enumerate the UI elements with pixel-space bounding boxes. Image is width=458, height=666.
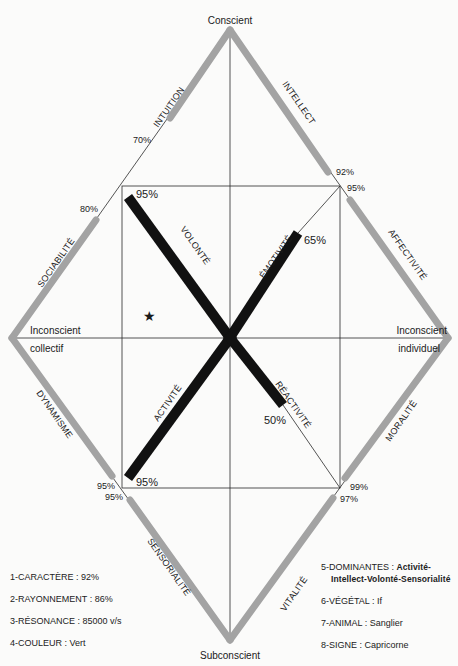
dominantes-label: 5-DOMINANTES : (321, 562, 397, 572)
value-activite: 95% (136, 476, 158, 488)
bar-sensorialite (130, 500, 230, 640)
value-sociabilite: 80% (80, 204, 98, 214)
legend-couleur: 4-COULEUR : Vert (10, 637, 122, 649)
value-sensorialite: 95% (105, 492, 123, 502)
legend-resonance: 3-RÉSONANCE : 85000 v/s (10, 615, 122, 627)
inner-bars (128, 197, 298, 478)
bar-intellect (230, 30, 328, 172)
bar-emotivite (227, 233, 298, 342)
dominantes-value-1: Activité- (397, 562, 431, 572)
label-volonte: VOLONTÉ (178, 224, 212, 266)
value-intellect: 92% (336, 167, 354, 177)
pole-left-2: collectif (30, 343, 64, 354)
legend-rayonnement: 2-RAYONNEMENT : 86% (10, 593, 122, 605)
pole-left-1: Inconscient (30, 325, 81, 336)
star-icon: ★ (143, 308, 156, 324)
bar-sociabilite (12, 220, 96, 338)
bar-activite (128, 334, 233, 478)
bar-dynamisme (12, 338, 112, 476)
value-intuition: 70% (133, 135, 151, 145)
bar-reactivite (227, 334, 283, 405)
value-volonte: 95% (136, 188, 158, 200)
value-reactivite: 50% (264, 414, 286, 426)
pole-right-1: Inconscient (396, 325, 447, 336)
value-dynamisme: 95% (97, 481, 115, 491)
legend-signe: 8-SIGNE : Capricorne (321, 639, 451, 651)
legend-right: 5-DOMINANTES : Activité- Intellect-Volon… (321, 561, 451, 661)
personality-diagram: Conscient Subconscient Inconscient colle… (0, 0, 458, 666)
pole-bottom: Subconscient (200, 650, 260, 661)
dominantes-value-2: Intellect-Volonté-Sensorialité (321, 573, 451, 585)
pole-top: Conscient (208, 15, 253, 26)
label-vitalite: VITALITÉ (278, 575, 309, 613)
value-emotivite: 65% (304, 234, 326, 246)
pole-right-2: individuel (398, 343, 440, 354)
bar-affectivite (350, 200, 448, 338)
label-sensorialite: SENSORIALITÉ (145, 536, 192, 597)
label-intellect: INTELLECT (280, 79, 317, 126)
value-vitalite: 97% (340, 494, 358, 504)
legend-dominantes: 5-DOMINANTES : Activité- (321, 561, 451, 573)
legend-left: 1-CARACTÈRE : 92% 2-RAYONNEMENT : 86% 3-… (10, 571, 122, 659)
bar-vitalite (230, 498, 333, 640)
bar-moralite (345, 338, 448, 478)
value-moralite: 99% (350, 482, 368, 492)
value-affectivite: 95% (347, 183, 365, 193)
legend-caractere: 1-CARACTÈRE : 92% (10, 571, 122, 583)
bar-intuition (170, 30, 230, 118)
legend-vegetal: 6-VÉGÉTAL : If (321, 595, 451, 607)
legend-animal: 7-ANIMAL : Sanglier (321, 617, 451, 629)
